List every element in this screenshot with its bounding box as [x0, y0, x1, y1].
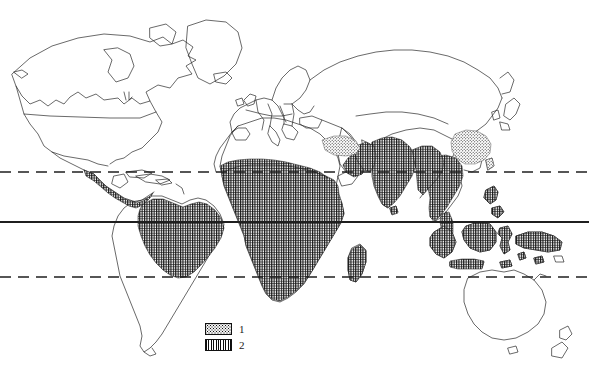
legend-label-2: 2 — [239, 339, 245, 351]
legend-label-1: 1 — [239, 323, 245, 335]
legend-swatch-stipple — [205, 323, 232, 335]
region-java-hatch — [450, 259, 484, 269]
world-map-svg — [0, 0, 589, 382]
legend-swatch-hatch — [205, 339, 232, 351]
legend-item-2: 2 — [205, 338, 245, 352]
legend-item-1: 1 — [205, 322, 245, 336]
map-figure: 1 2 — [0, 0, 589, 382]
map-legend: 1 2 — [205, 322, 245, 352]
